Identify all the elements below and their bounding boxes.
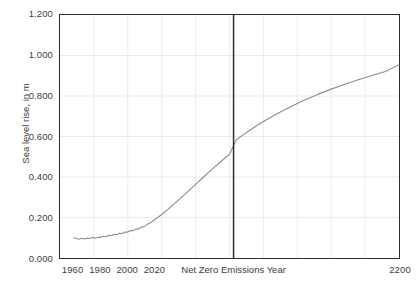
x-tick-label: 2200 xyxy=(389,264,411,275)
y-tick-label: 0.800 xyxy=(0,90,53,101)
y-tick-label: 0.200 xyxy=(0,212,53,223)
x-axis-title: Net Zero Emissions Year xyxy=(181,264,286,275)
x-tick-label: 2000 xyxy=(116,264,138,275)
y-axis-title: Sea level rise, in m xyxy=(20,39,31,209)
annotation-layer xyxy=(60,15,399,258)
y-tick-label: 0.600 xyxy=(0,131,53,142)
y-tick-label: 1.200 xyxy=(0,8,53,19)
x-tick-label: 1960 xyxy=(62,264,84,275)
x-tick-label: 1980 xyxy=(89,264,111,275)
plot-area xyxy=(59,14,400,259)
y-tick-label: 0.000 xyxy=(0,253,53,264)
y-tick-label: 1.000 xyxy=(0,49,53,60)
y-tick-label: 0.400 xyxy=(0,171,53,182)
x-tick-label: 2020 xyxy=(144,264,166,275)
sea-level-rise-chart: Sea level rise, in m 0.0000.2000.4000.60… xyxy=(0,0,420,286)
